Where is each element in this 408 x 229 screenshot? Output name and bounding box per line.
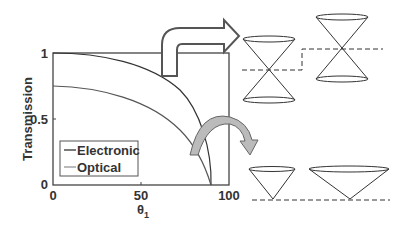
legend-electronic: Electronic <box>77 143 140 158</box>
xtick-100: 100 <box>218 188 240 203</box>
legend-optical: Optical <box>77 160 121 175</box>
ytick-1: 1 <box>41 46 48 61</box>
cone-wide <box>309 166 389 199</box>
x-axis-label: θ1 <box>137 202 149 220</box>
xtick-50: 50 <box>134 188 148 203</box>
up-arrow-icon <box>162 20 239 76</box>
double-cone-right <box>316 14 368 82</box>
ytick-0: 0 <box>41 177 48 192</box>
y-axis-label: Transmission <box>20 77 35 161</box>
xtick-0: 0 <box>49 188 56 203</box>
fermi-level-step <box>242 49 383 70</box>
figure: 1 0.5 0 0 50 100 Transmission θ1 Electro… <box>0 0 408 229</box>
cone-narrow <box>249 167 295 200</box>
